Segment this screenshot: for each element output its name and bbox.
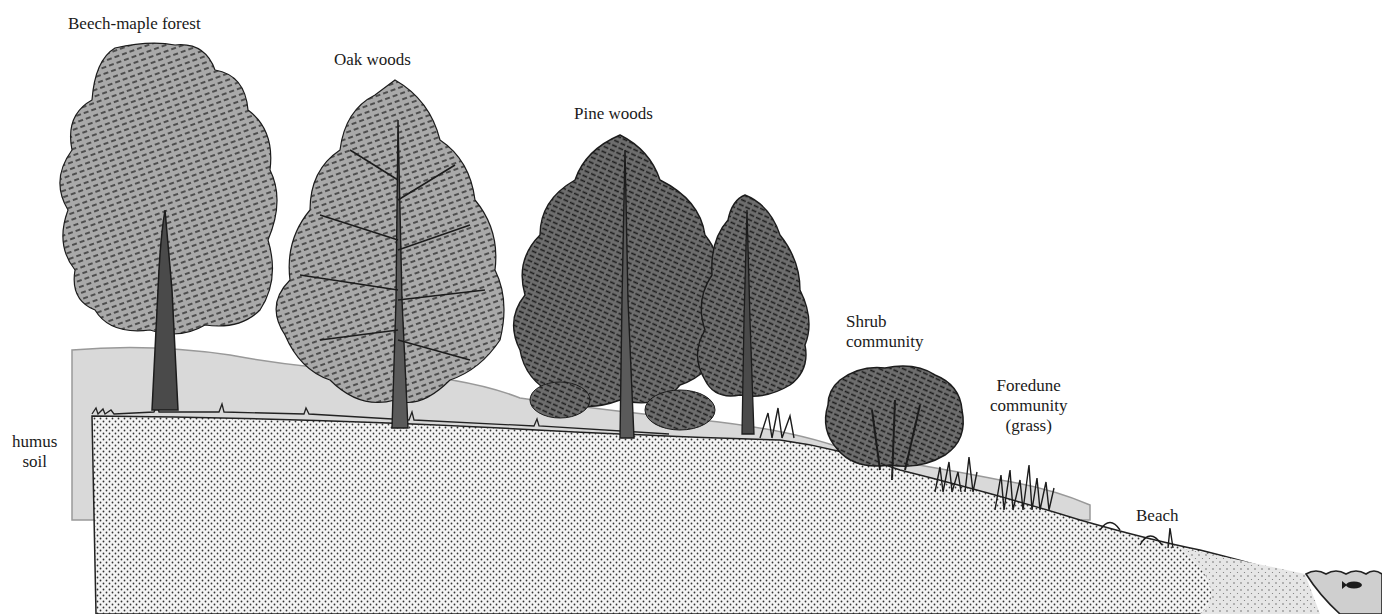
- label-humus-soil: humus soil: [12, 432, 57, 472]
- label-beech-maple-forest: Beech-maple forest: [68, 14, 201, 34]
- label-beach: Beach: [1136, 506, 1178, 526]
- label-pine-woods: Pine woods: [574, 104, 653, 124]
- label-foredune-community: Foredune community (grass): [990, 376, 1067, 436]
- pine-tree-small: [698, 195, 810, 434]
- label-oak-woods: Oak woods: [334, 50, 411, 70]
- label-shrub-community: Shrub community: [846, 312, 923, 352]
- humus-soil-ground: [92, 416, 1300, 614]
